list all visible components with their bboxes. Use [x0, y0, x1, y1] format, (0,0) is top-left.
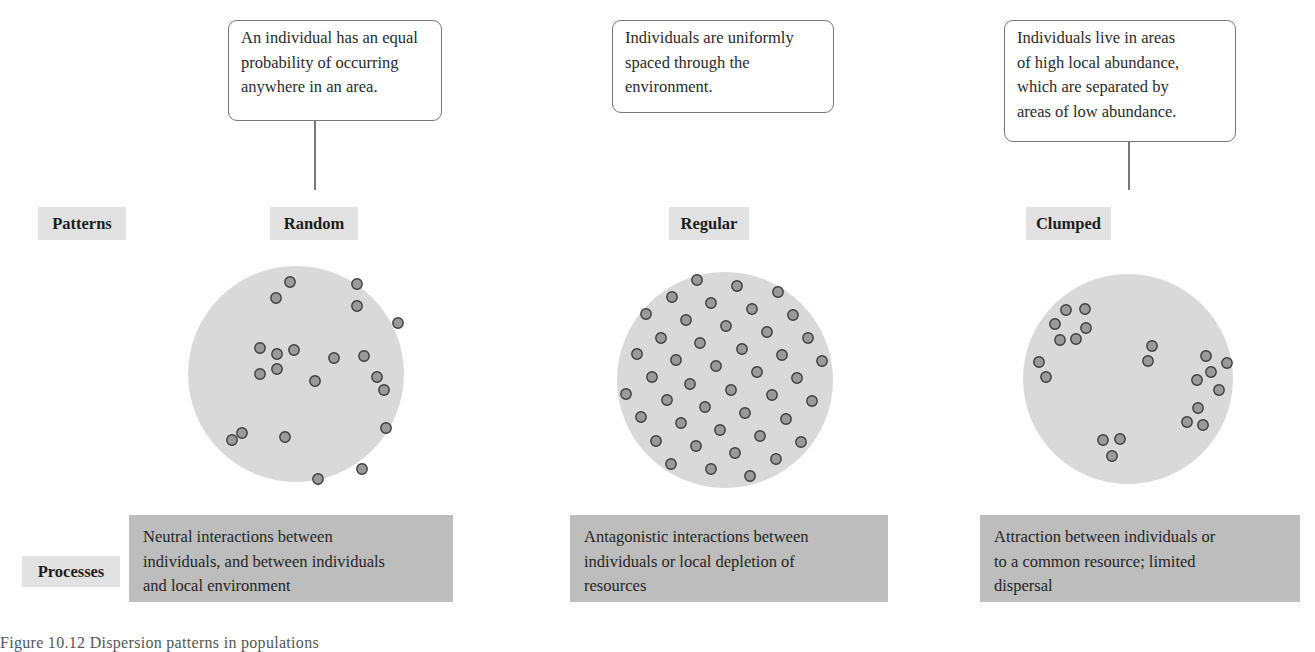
individual-dot [721, 321, 731, 331]
individual-dot [706, 298, 716, 308]
individual-dot [255, 369, 265, 379]
process-random-line-2: individuals, and between individuals [143, 550, 439, 575]
individual-dot [732, 281, 742, 291]
individual-dot [817, 356, 827, 366]
individual-dot [1115, 434, 1125, 444]
process-clumped: Attraction between individuals or to a c… [980, 515, 1300, 602]
individual-dot [237, 428, 247, 438]
callout-clumped-line-1: Individuals live in areas [1017, 26, 1225, 51]
process-random-line-3: and local environment [143, 574, 439, 599]
individual-dot [636, 412, 646, 422]
individual-dot [1081, 323, 1091, 333]
process-clumped-line-2: to a common resource; limited [994, 550, 1286, 575]
individual-dot [747, 304, 757, 314]
callout-random: An individual has an equal probability o… [228, 20, 442, 121]
individual-dot [1143, 356, 1153, 366]
individual-dot [1192, 375, 1202, 385]
individual-dot [272, 364, 282, 374]
callout-random-line-3: anywhere in an area. [241, 75, 431, 100]
individual-dot [272, 349, 282, 359]
individual-dot [255, 343, 265, 353]
individual-dot [695, 338, 705, 348]
callout-clumped-line-3: which are separated by [1017, 75, 1225, 100]
individual-dot [381, 423, 391, 433]
callout-clumped: Individuals live in areas of high local … [1004, 20, 1236, 142]
individual-dot [692, 275, 702, 285]
process-regular-line-1: Antagonistic interactions between [584, 525, 874, 550]
pattern-tag-random: Random [270, 207, 358, 240]
individual-dot [726, 385, 736, 395]
callout-regular-line-2: spaced through the [625, 51, 823, 76]
process-random: Neutral interactions between individuals… [129, 515, 453, 602]
individual-dot [285, 277, 295, 287]
individual-dot [1214, 385, 1224, 395]
individual-dot [767, 390, 777, 400]
individual-dot [1206, 367, 1216, 377]
individual-dot [632, 349, 642, 359]
row-label-patterns: Patterns [38, 207, 126, 240]
process-regular-line-2: individuals or local depletion of [584, 550, 874, 575]
individual-dot [706, 464, 716, 474]
individual-dot [745, 471, 755, 481]
process-random-line-1: Neutral interactions between [143, 525, 439, 550]
individual-dot [807, 396, 817, 406]
callout-random-line-1: An individual has an equal [241, 26, 431, 51]
connector-clumped [1128, 142, 1130, 190]
individual-dot [777, 350, 787, 360]
process-regular: Antagonistic interactions between indivi… [570, 515, 888, 602]
individual-dot [1061, 305, 1071, 315]
individual-dot [352, 279, 362, 289]
figure-caption: Figure 10.12 Dispersion patterns in popu… [0, 634, 319, 652]
individual-dot [1055, 335, 1065, 345]
callout-regular-line-3: environment. [625, 75, 823, 100]
individual-dot [671, 355, 681, 365]
process-regular-line-3: resources [584, 574, 874, 599]
individual-dot [1041, 372, 1051, 382]
individual-dot [662, 395, 672, 405]
individual-dot [1107, 451, 1117, 461]
individual-dot [711, 361, 721, 371]
individual-dot [752, 367, 762, 377]
individual-dot [1050, 319, 1060, 329]
individual-dot [359, 351, 369, 361]
individual-dot [352, 301, 362, 311]
individual-dot [715, 425, 725, 435]
individual-dot [227, 435, 237, 445]
individual-dot [651, 436, 661, 446]
individual-dot [313, 474, 323, 484]
individual-dot [641, 309, 651, 319]
individual-dot [1147, 341, 1157, 351]
individual-dot [771, 454, 781, 464]
individual-dot [792, 373, 802, 383]
individual-dot [700, 402, 710, 412]
individual-dot [685, 379, 695, 389]
individual-dot [788, 310, 798, 320]
individual-dot [289, 345, 299, 355]
individual-dot [379, 385, 389, 395]
callout-clumped-line-4: areas of low abundance. [1017, 100, 1225, 125]
individual-dot [1071, 334, 1081, 344]
individual-dot [372, 372, 382, 382]
individual-dot [667, 292, 677, 302]
row-label-processes: Processes [22, 556, 120, 587]
callout-regular-line-1: Individuals are uniformly [625, 26, 823, 51]
callout-regular: Individuals are uniformly spaced through… [612, 20, 834, 113]
individual-dot [1193, 403, 1203, 413]
callout-clumped-line-2: of high local abundance, [1017, 51, 1225, 76]
pattern-tag-clumped: Clumped [1026, 207, 1111, 240]
individual-dot [329, 353, 339, 363]
individual-dot [280, 432, 290, 442]
process-clumped-line-3: dispersal [994, 574, 1286, 599]
individual-dot [393, 318, 403, 328]
individual-dot [1080, 304, 1090, 314]
individual-dot [796, 437, 806, 447]
individual-dot [740, 408, 750, 418]
individual-dot [676, 418, 686, 428]
random-area-circle [188, 266, 404, 482]
individual-dot [666, 459, 676, 469]
individual-dot [310, 376, 320, 386]
individual-dot [1201, 351, 1211, 361]
individual-dot [1182, 417, 1192, 427]
individual-dot [681, 315, 691, 325]
individual-dot [755, 431, 765, 441]
